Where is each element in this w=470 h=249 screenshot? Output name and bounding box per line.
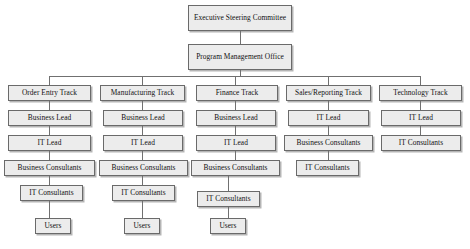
- node-finance-users: Users: [210, 218, 246, 234]
- connector-technology-2: [420, 126, 421, 135]
- connector-sales-reporting-2: [328, 126, 329, 135]
- node-sales-reporting-it-lead: IT Lead: [288, 110, 369, 126]
- node-order-entry-it-lead: IT Lead: [8, 135, 91, 151]
- node-finance-business-lead: Business Lead: [196, 110, 276, 126]
- node-label: IT Consultants: [305, 164, 349, 173]
- connector-manufacturing-1: [142, 101, 143, 110]
- connector-bus-drop-finance: [235, 76, 236, 85]
- node-order-entry-business-lead: Business Lead: [8, 110, 91, 126]
- node-order-entry-users: Users: [35, 218, 71, 234]
- track-header-technology: Technology Track: [379, 85, 462, 101]
- node-technology-it-lead: IT Lead: [381, 110, 461, 126]
- node-label: Business Lead: [214, 114, 258, 123]
- connector-manufacturing-4: [142, 176, 143, 185]
- connector-finance-3: [235, 151, 236, 160]
- node-label: IT Lead: [317, 114, 341, 123]
- node-label: Business Lead: [121, 114, 165, 123]
- node-label: IT Lead: [38, 139, 62, 148]
- node-manufacturing-it-consultants: IT Consultants: [112, 185, 175, 201]
- node-technology-it-consultants: IT Consultants: [381, 135, 461, 151]
- node-finance-it-consultants: IT Consultants: [197, 191, 260, 207]
- connector-order-entry-2: [49, 126, 50, 135]
- connector-manufacturing-2: [142, 126, 143, 135]
- node-sales-reporting-it-consultants: IT Consultants: [296, 160, 359, 176]
- track-header-sales-reporting: Sales/Reporting Track: [286, 85, 371, 101]
- connector-exec-to-pmo: [240, 31, 241, 44]
- node-label: Users: [44, 222, 61, 231]
- node-executive-steering-committee: Executive Steering Committee: [188, 5, 292, 31]
- track-header-finance: Finance Track: [196, 85, 278, 101]
- node-label: IT Consultants: [206, 195, 250, 204]
- track-header-manufacturing: Manufacturing Track: [100, 85, 185, 101]
- node-finance-business-consultants: Business Consultants: [191, 160, 280, 176]
- node-label: Business Lead: [28, 114, 72, 123]
- track-header-order-entry: Order Entry Track: [8, 85, 91, 101]
- node-label: Finance Track: [216, 89, 259, 98]
- connector-finance-1: [235, 101, 236, 110]
- node-label: Technology Track: [393, 89, 447, 98]
- connector-finance-5: [228, 207, 229, 218]
- connector-manufacturing-5: [142, 201, 143, 218]
- node-finance-it-lead: IT Lead: [196, 135, 276, 151]
- node-sales-reporting-business-consultants: Business Consultants: [284, 135, 373, 151]
- node-manufacturing-business-lead: Business Lead: [103, 110, 183, 126]
- node-label: Program Management Office: [196, 53, 284, 62]
- connector-sales-reporting-1: [328, 101, 329, 110]
- connector-bus-drop-sales-reporting: [328, 76, 329, 85]
- node-label: IT Consultants: [399, 139, 443, 148]
- node-label: Sales/Reporting Track: [295, 89, 362, 98]
- node-label: IT Consultants: [29, 189, 73, 198]
- connector-bus-drop-order-entry: [49, 76, 50, 85]
- connector-bus-drop-technology: [420, 76, 421, 85]
- connector-order-entry-5: [49, 201, 50, 218]
- connector-order-entry-3: [49, 151, 50, 160]
- node-label: Business Consultants: [111, 164, 175, 173]
- org-chart: Executive Steering Committee Program Man…: [0, 0, 470, 249]
- node-manufacturing-users: Users: [124, 218, 160, 234]
- connector-technology-1: [420, 101, 421, 110]
- node-label: Order Entry Track: [22, 89, 77, 98]
- node-label: Executive Steering Committee: [194, 14, 286, 23]
- node-label: IT Lead: [131, 139, 155, 148]
- connector-order-entry-4: [49, 176, 50, 185]
- connector-sales-reporting-3: [328, 151, 329, 160]
- node-label: Manufacturing Track: [111, 89, 175, 98]
- connector-finance-4: [228, 176, 229, 191]
- node-label: Users: [219, 222, 236, 231]
- connector-finance-2: [235, 126, 236, 135]
- connector-order-entry-1: [49, 101, 50, 110]
- node-manufacturing-it-lead: IT Lead: [103, 135, 183, 151]
- connector-manufacturing-3: [142, 151, 143, 160]
- connector-bus-drop-manufacturing: [142, 76, 143, 85]
- node-label: Users: [133, 222, 150, 231]
- node-manufacturing-business-consultants: Business Consultants: [99, 160, 188, 176]
- node-order-entry-business-consultants: Business Consultants: [4, 160, 95, 176]
- node-label: IT Lead: [224, 139, 248, 148]
- node-label: IT Consultants: [121, 189, 165, 198]
- node-label: Business Consultants: [17, 164, 81, 173]
- node-label: IT Lead: [409, 114, 433, 123]
- node-label: Business Consultants: [203, 164, 267, 173]
- node-order-entry-it-consultants: IT Consultants: [20, 185, 83, 201]
- node-program-management-office: Program Management Office: [188, 44, 292, 70]
- node-label: Business Consultants: [296, 139, 360, 148]
